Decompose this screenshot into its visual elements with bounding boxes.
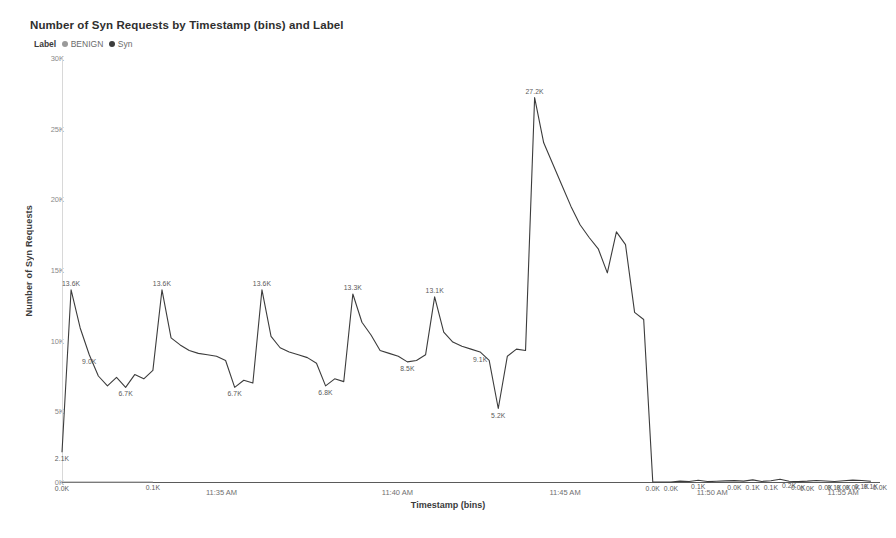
data-point-label: 0.0K [664,485,678,492]
y-tick-label: 15K [38,266,64,275]
data-point-label: 13.3K [344,284,362,291]
legend-label-benign: BENIGN [71,39,104,49]
data-point-label: 9.0K [82,358,96,365]
data-point-label: 0.1K [691,483,705,490]
y-tick-label: 10K [38,336,64,345]
series-canvas [62,58,880,482]
chart-title: Number of Syn Requests by Timestamp (bin… [30,19,344,31]
x-axis-title: Timestamp (bins) [0,500,896,510]
data-point-label: 6.7K [227,390,241,397]
chart-container: Number of Syn Requests by Timestamp (bin… [0,0,896,538]
y-tick-label: 25K [38,124,64,133]
y-axis-title: Number of Syn Requests [24,205,34,316]
data-point-label: 2.1K [55,455,69,462]
x-tick-label: 11:35 AM [206,488,237,497]
data-point-label: 0.0K [55,485,69,492]
data-point-label: 0.0K [873,484,887,491]
data-point-label: 0.0K [646,485,660,492]
data-point-label: 0.1K [746,484,760,491]
legend-swatch-benign [62,41,68,47]
data-point-label: 8.5K [400,365,414,372]
data-point-label: 0.0K [800,485,814,492]
data-point-label: 9.1K [473,356,487,363]
y-tick-label: 30K [38,54,64,63]
data-point-label: 5.2K [491,412,505,419]
series-line-syn [62,98,871,482]
legend-item-syn[interactable]: Syn [109,39,132,49]
x-tick-label: 11:40 AM [382,488,413,497]
legend-swatch-syn [109,41,115,47]
data-point-label: 13.6K [153,280,171,287]
data-point-label: 13.6K [253,280,271,287]
data-point-label: 0.1K [146,484,160,491]
legend-item-benign[interactable]: BENIGN [62,39,103,49]
data-point-label: 0.0K [727,484,741,491]
data-point-label: 13.6K [62,280,80,287]
x-tick-label: 11:45 AM [549,488,580,497]
y-tick-label: 5K [38,407,64,416]
legend: Label BENIGN Syn [34,39,132,49]
data-point-label: 27.2K [525,88,543,95]
y-tick-label: 20K [38,195,64,204]
data-point-label: 6.7K [118,390,132,397]
data-point-label: 6.8K [318,389,332,396]
legend-title: Label [34,39,56,49]
data-point-label: 0.1K [764,484,778,491]
data-point-label: 13.1K [426,287,444,294]
plot-area [62,58,880,482]
legend-label-syn: Syn [118,39,133,49]
